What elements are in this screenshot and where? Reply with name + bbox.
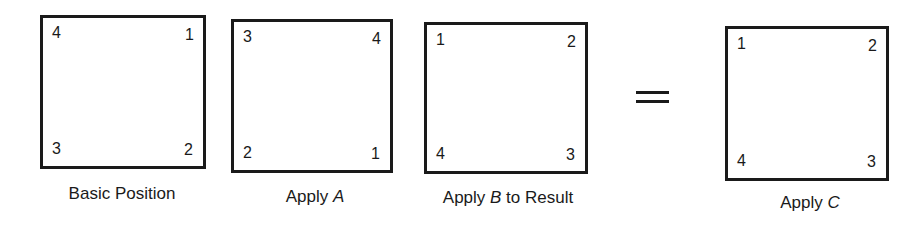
corner-label-top-left: 1 [737,36,746,52]
caption-suffix: to Result [501,188,573,207]
corner-label-top-left: 4 [52,25,61,41]
corner-label-bottom-left: 2 [243,145,252,161]
equals-bar-top [636,91,669,94]
square-apply-b: 1 2 4 3 [424,22,588,174]
caption-prefix: Apply [443,188,490,207]
corner-label-top-right: 2 [567,34,576,50]
corner-label-top-left: 3 [243,29,252,45]
caption-variable: C [827,193,839,212]
caption-variable: A [333,187,344,206]
corner-label-bottom-right: 2 [184,142,193,158]
corner-label-top-left: 1 [436,32,445,48]
caption-variable: B [490,188,501,207]
square-apply-c: 1 2 4 3 [725,26,889,181]
caption-prefix: Apply [780,193,827,212]
caption-apply-c: Apply C [780,193,840,213]
corner-label-top-right: 1 [185,27,194,43]
corner-label-bottom-left: 3 [52,141,61,157]
caption-prefix: Apply [286,187,333,206]
equals-sign [636,91,669,103]
equals-bar-bottom [636,100,669,103]
corner-label-bottom-left: 4 [436,146,445,162]
corner-label-bottom-right: 3 [566,147,575,163]
corner-label-top-right: 2 [868,38,877,54]
square-apply-a: 3 4 2 1 [231,19,393,173]
square-basic-position: 4 1 3 2 [40,15,206,169]
corner-label-top-right: 4 [372,31,381,47]
caption-text: Basic Position [69,184,176,203]
caption-basic-position: Basic Position [69,184,176,204]
caption-apply-a: Apply A [286,187,345,207]
corner-label-bottom-right: 1 [371,146,380,162]
corner-label-bottom-left: 4 [737,153,746,169]
caption-apply-b-to-result: Apply B to Result [443,188,573,208]
corner-label-bottom-right: 3 [867,154,876,170]
